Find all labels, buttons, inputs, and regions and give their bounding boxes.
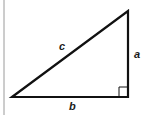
- hypotenuse-label-c: c: [59, 41, 65, 52]
- triangle-diagram: [0, 0, 150, 115]
- right-angle-marker: [119, 87, 128, 97]
- leg-label-b: b: [69, 101, 76, 112]
- right-triangle: [12, 11, 128, 97]
- leg-label-a: a: [134, 49, 140, 60]
